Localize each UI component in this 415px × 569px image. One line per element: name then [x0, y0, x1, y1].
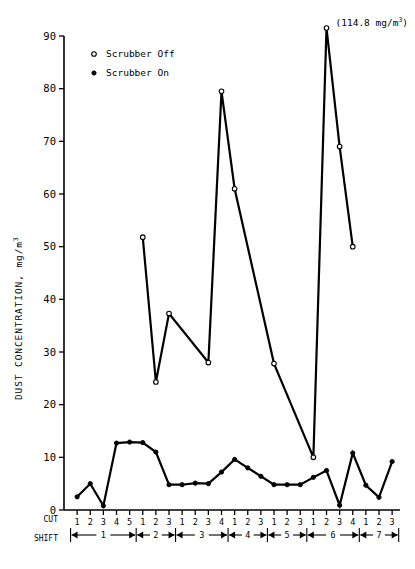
y-tick-label: 50 — [43, 240, 56, 252]
data-point — [390, 459, 394, 463]
y-tick-label: 70 — [43, 135, 56, 147]
data-point — [232, 186, 237, 191]
legend-label: Scrubber On — [106, 67, 169, 78]
shift-arrow-right — [352, 531, 358, 538]
x-tick-label: 5 — [127, 517, 132, 527]
series-scrubber-on — [75, 440, 394, 508]
cut-row-label: CUT — [44, 515, 59, 524]
shift-arrow-right — [392, 531, 398, 538]
x-tick-label: 2 — [245, 517, 250, 527]
x-tick-label: 4 — [350, 517, 355, 527]
data-point — [167, 483, 171, 487]
data-point — [337, 144, 342, 149]
data-point — [206, 482, 210, 486]
data-point — [324, 26, 329, 31]
y-tick-label: 80 — [43, 82, 56, 94]
shift-arrow-left — [137, 531, 143, 538]
y-tick-label: 10 — [43, 451, 56, 463]
x-tick-label: 3 — [206, 517, 211, 527]
data-point — [272, 361, 277, 366]
data-point — [259, 474, 263, 478]
x-tick-label: 3 — [101, 517, 106, 527]
data-point — [154, 380, 159, 385]
y-axis-title: DUST CONCENTRATION, mg/m3 — [12, 236, 24, 400]
y-axis-ticks: 0102030405060708090 — [43, 30, 64, 516]
x-tick-label: 1 — [232, 517, 237, 527]
legend-marker — [92, 71, 96, 75]
data-point — [101, 504, 105, 508]
shift-arrow-left — [229, 531, 235, 538]
y-tick-label: 0 — [50, 504, 56, 516]
x-tick-label: 2 — [88, 517, 93, 527]
data-point — [219, 89, 224, 94]
x-tick-label: 2 — [285, 517, 290, 527]
chart-container: DUST CONCENTRATION, mg/m3 01020304050607… — [0, 0, 415, 569]
data-point — [233, 457, 237, 461]
data-point — [206, 360, 211, 365]
x-tick-label: 3 — [258, 517, 263, 527]
data-point — [311, 455, 316, 460]
data-point — [246, 466, 250, 470]
y-tick-label: 90 — [43, 30, 56, 42]
y-tick-label: 20 — [43, 398, 56, 410]
svg-text:DUST CONCENTRATION, mg/m3: DUST CONCENTRATION, mg/m3 — [12, 236, 24, 400]
x-tick-label: 1 — [75, 517, 80, 527]
shift-arrow-left — [177, 531, 183, 538]
data-point — [154, 450, 158, 454]
x-tick-label: 3 — [166, 517, 171, 527]
x-tick-label: 1 — [180, 517, 185, 527]
y-tick-label: 60 — [43, 188, 56, 200]
shift-arrow-left — [268, 531, 274, 538]
data-point — [128, 440, 132, 444]
chart-annotations: (114.8 mg/m3) — [336, 16, 409, 28]
data-point — [114, 441, 118, 445]
x-tick-label: 1 — [363, 517, 368, 527]
y-tick-label: 30 — [43, 346, 56, 358]
data-point — [285, 483, 289, 487]
shift-label: 1 — [101, 530, 106, 540]
data-point — [324, 468, 328, 472]
x-tick-label: 3 — [337, 517, 342, 527]
x-tick-label: 2 — [193, 517, 198, 527]
data-point — [311, 475, 315, 479]
shift-label: 4 — [245, 530, 250, 540]
shift-arrow-left — [360, 531, 366, 538]
data-point — [272, 483, 276, 487]
data-point — [298, 483, 302, 487]
shift-arrow-right — [260, 531, 266, 538]
x-tick-label: 3 — [298, 517, 303, 527]
y-axis-title-text: DUST CONCENTRATION, mg/m — [13, 241, 24, 400]
legend-marker — [92, 52, 97, 57]
axes — [64, 36, 400, 510]
y-axis-title-sup: 3 — [12, 236, 20, 241]
shift-arrow-right — [300, 531, 306, 538]
series-polyline — [77, 442, 392, 506]
shift-label: 2 — [153, 530, 158, 540]
data-point — [350, 244, 355, 249]
data-point — [338, 503, 342, 507]
annotation-suffix: ) — [402, 17, 408, 28]
data-point — [167, 311, 172, 316]
legend-label: Scrubber Off — [106, 48, 175, 59]
x-tick-label: 1 — [271, 517, 276, 527]
shift-label: 3 — [199, 530, 204, 540]
data-point — [88, 482, 92, 486]
x-tick-label: 1 — [311, 517, 316, 527]
data-point — [180, 483, 184, 487]
shift-label: 6 — [331, 530, 336, 540]
shift-arrow-right — [169, 531, 175, 538]
x-tick-label: 4 — [114, 517, 119, 527]
data-point — [377, 495, 381, 499]
x-tick-label: 3 — [390, 517, 395, 527]
data-point — [193, 481, 197, 485]
y-tick-label: 40 — [43, 293, 56, 305]
series-scrubber-off — [140, 26, 355, 460]
chart-legend: Scrubber OffScrubber On — [92, 48, 175, 78]
shift-label: 5 — [285, 530, 290, 540]
shift-arrow-right — [129, 531, 135, 538]
data-point — [219, 470, 223, 474]
shift-label: 7 — [376, 530, 381, 540]
data-point — [140, 235, 145, 240]
dust-concentration-chart: DUST CONCENTRATION, mg/m3 01020304050607… — [0, 0, 415, 569]
shift-arrow-left — [72, 531, 78, 538]
